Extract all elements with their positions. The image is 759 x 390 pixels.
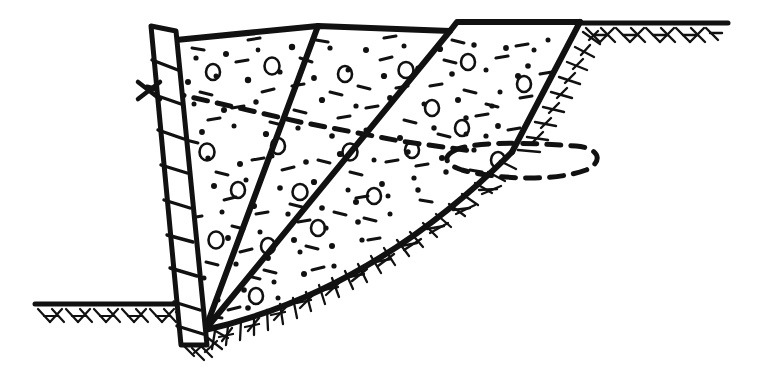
- excavation-slope-hatch: [518, 31, 600, 152]
- backfill-top-surface: [176, 22, 580, 40]
- retaining-wall-section-figure: [0, 0, 759, 390]
- sheet-pile-retaining-wall: [151, 26, 207, 345]
- wedge-line-1: [205, 26, 318, 330]
- granular-backfill-stipple: [178, 36, 553, 324]
- ground-hatch-left: [38, 309, 176, 322]
- ground-hatch-right: [586, 28, 722, 42]
- dashed-displacement-loop: [447, 143, 597, 178]
- diagram-canvas: Retaining wall with granular backfill, e…: [0, 0, 759, 390]
